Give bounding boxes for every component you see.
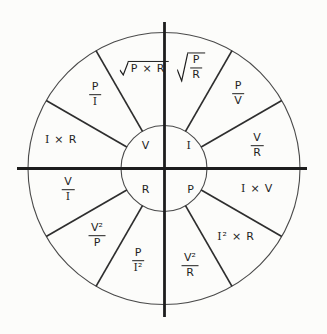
center-label-i: I bbox=[186, 140, 191, 152]
sector-formula-v2-over-r: V²R bbox=[182, 252, 199, 280]
sector-formula-i-times-v: I × V bbox=[241, 183, 273, 195]
sector-formula-p-over-i2: PI² bbox=[132, 247, 144, 275]
sector-divider-210 bbox=[46, 190, 127, 237]
sector-formula-sqrt-p-over-r: PR bbox=[177, 52, 205, 85]
sector-formula-i2-times-r: I² × R bbox=[217, 231, 254, 243]
center-label-v: V bbox=[142, 140, 150, 152]
wheel-drawing bbox=[0, 0, 327, 334]
sector-formula-v2-over-p: V²P bbox=[89, 222, 106, 250]
formula-wheel-diagram: P × R PR PI PV I × R VR VI I × V V²P I² … bbox=[0, 0, 327, 334]
sector-formula-v-over-r: VR bbox=[251, 132, 264, 160]
sector-formula-v-over-i: VI bbox=[62, 176, 75, 204]
sector-formula-p-over-v: PV bbox=[232, 80, 244, 108]
sector-formula-sqrt-p-times-r: P × R bbox=[120, 61, 169, 79]
sector-formula-p-over-i: PI bbox=[89, 81, 101, 109]
center-label-r: R bbox=[142, 184, 150, 196]
center-label-p: P bbox=[187, 184, 194, 196]
sector-formula-i-times-r: I × R bbox=[45, 134, 77, 146]
